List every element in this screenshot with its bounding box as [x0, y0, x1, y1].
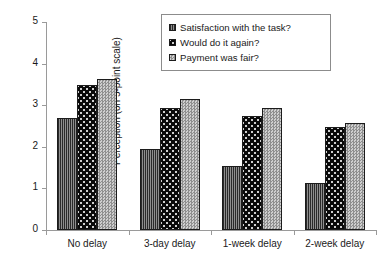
legend-swatch-icon — [169, 24, 176, 31]
bar — [160, 108, 180, 230]
bar — [305, 183, 325, 230]
bar — [57, 118, 77, 230]
legend-label: Payment was fair? — [180, 53, 259, 63]
chart-legend: Satisfaction with the task?Would do it a… — [161, 14, 331, 71]
x-separator-tick — [294, 230, 295, 235]
bar — [262, 108, 282, 230]
y-tick-mark — [42, 188, 46, 189]
x-separator-tick — [376, 230, 377, 235]
legend-swatch-icon — [169, 54, 176, 61]
bar — [345, 123, 365, 230]
y-tick-label: 4 — [22, 57, 38, 68]
y-tick-label: 3 — [22, 98, 38, 109]
bar-chart-figure: Perception (on 5-point scale) 012345 No … — [0, 0, 388, 262]
legend-item: Payment was fair? — [169, 50, 324, 65]
y-tick-label: 0 — [22, 223, 38, 234]
legend-label: Satisfaction with the task? — [180, 23, 291, 33]
y-tick-label: 1 — [22, 181, 38, 192]
legend-item: Satisfaction with the task? — [169, 20, 324, 35]
y-tick-label: 5 — [22, 15, 38, 26]
y-tick-mark — [42, 64, 46, 65]
y-tick-mark — [42, 22, 46, 23]
bar — [180, 99, 200, 230]
bar — [97, 79, 117, 230]
legend-label: Would do it again? — [180, 38, 259, 48]
x-separator-tick — [46, 230, 47, 235]
y-tick-mark — [42, 105, 46, 106]
legend-swatch-icon — [169, 39, 176, 46]
x-category-label: No delay — [46, 238, 129, 249]
legend-item: Would do it again? — [169, 35, 324, 50]
bar — [77, 85, 97, 230]
y-tick-label: 2 — [22, 140, 38, 151]
y-tick-mark — [42, 147, 46, 148]
bar — [325, 127, 345, 230]
x-separator-tick — [129, 230, 130, 235]
x-category-label: 1-week delay — [211, 238, 294, 249]
x-category-label: 3-day delay — [129, 238, 212, 249]
bar — [222, 166, 242, 230]
x-category-label: 2-week delay — [294, 238, 377, 249]
bar — [242, 116, 262, 230]
bar — [140, 149, 160, 230]
x-separator-tick — [211, 230, 212, 235]
